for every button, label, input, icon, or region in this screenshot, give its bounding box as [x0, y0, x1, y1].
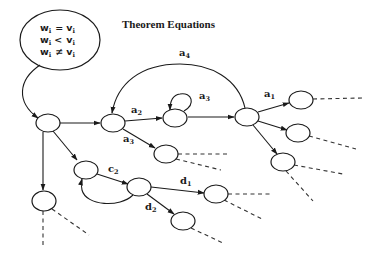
edge-n5-rA: [258, 103, 289, 112]
node-right-c: [271, 153, 295, 171]
label-a2: a2: [131, 104, 142, 117]
edge-bubble-to-n1: [22, 65, 40, 118]
node-n1: [36, 114, 60, 132]
node-n2: [101, 114, 125, 132]
edge-n3-self-loop: [170, 94, 191, 111]
label-d2: d2: [145, 201, 157, 214]
node-right-a: [289, 91, 313, 109]
label-a1: a1: [264, 88, 275, 101]
edge-n1-n6: [53, 131, 77, 160]
label-d1: d1: [180, 175, 192, 188]
node-n10: [32, 191, 56, 211]
node-n6: [74, 161, 98, 179]
edge-n7-n8: [151, 187, 204, 193]
node-n9: [171, 212, 195, 230]
node-n8: [204, 185, 228, 203]
node-n3: [163, 109, 187, 127]
node-n5: [235, 108, 259, 126]
label-a4: a4: [179, 47, 190, 60]
edge-n2-n3: [125, 118, 162, 121]
label-c2: c2: [108, 163, 119, 176]
label-a3-loop: a3: [199, 90, 210, 103]
state-transition-diagram: Theorem Equations wi=vi wi<vi wi≠vi: [0, 0, 379, 261]
edge-n5-rB: [258, 121, 287, 130]
edge-n6-n7: [97, 174, 128, 184]
node-n7: [127, 178, 151, 196]
equations-bubble: wi=vi wi<vi wi≠vi: [20, 10, 100, 70]
diagram-title: Theorem Equations: [122, 18, 216, 30]
node-right-b: [286, 124, 310, 142]
node-n4: [154, 145, 178, 163]
edge-n5-rC: [253, 125, 277, 154]
